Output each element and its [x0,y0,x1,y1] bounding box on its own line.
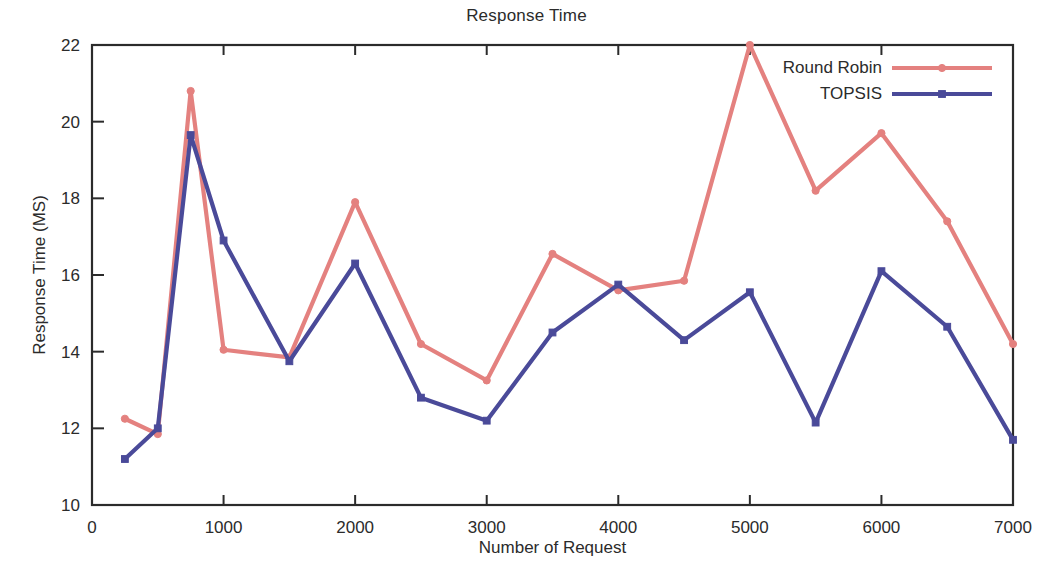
y-tick-label: 18 [61,189,80,208]
data-point-marker [549,329,556,336]
data-point-marker [549,250,556,257]
response-time-chart: Response Time Response Time (MS) Number … [0,0,1053,564]
data-point-marker [812,187,819,194]
data-point-marker [417,340,424,347]
series-round-robin [121,41,1016,437]
data-point-marker [812,419,819,426]
data-point-marker [187,87,194,94]
data-point-marker [352,199,359,206]
y-axis-ticks: 10121416182022 [61,36,104,515]
plot-area: 10121416182022 0100020003000400050006000… [0,0,1053,564]
data-point-marker [187,132,194,139]
chart-legend: Round RobinTOPSIS [783,58,992,103]
data-point-marker [878,130,885,137]
x-tick-label: 2000 [336,518,374,537]
data-point-marker [615,281,622,288]
data-point-marker [1009,340,1016,347]
data-point-marker [220,346,227,353]
series-line [125,135,1013,459]
data-series-layer [121,41,1016,462]
data-point-marker [352,260,359,267]
legend-label-2: TOPSIS [820,84,882,103]
x-tick-label: 4000 [599,518,637,537]
data-point-marker [1010,436,1017,443]
data-point-marker [121,415,128,422]
data-point-marker [944,323,951,330]
series-topsis [121,132,1016,463]
data-point-marker [220,237,227,244]
data-point-marker [944,218,951,225]
y-tick-label: 22 [61,36,80,55]
x-tick-label: 5000 [731,518,769,537]
legend-label-1: Round Robin [783,58,882,77]
x-tick-label: 0 [87,518,96,537]
x-tick-label: 3000 [468,518,506,537]
data-point-marker [746,41,753,48]
data-point-marker [680,277,687,284]
data-point-marker [286,358,293,365]
legend-marker-sample [939,91,946,98]
y-tick-label: 12 [61,419,80,438]
x-tick-label: 7000 [994,518,1032,537]
x-tick-label: 6000 [863,518,901,537]
data-point-marker [681,337,688,344]
data-point-marker [878,268,885,275]
data-point-marker [121,456,128,463]
y-tick-label: 20 [61,113,80,132]
data-point-marker [746,289,753,296]
y-tick-label: 10 [61,496,80,515]
data-point-marker [418,394,425,401]
y-tick-label: 14 [61,343,80,362]
series-line [125,45,1013,434]
x-axis-ticks: 01000200030004000500060007000 [87,45,1032,537]
data-point-marker [154,425,161,432]
data-point-marker [483,417,490,424]
y-tick-label: 16 [61,266,80,285]
plot-border [92,45,1013,505]
legend-marker-sample [938,64,945,71]
x-tick-label: 1000 [205,518,243,537]
plot-frame [92,45,1013,505]
data-point-marker [483,377,490,384]
